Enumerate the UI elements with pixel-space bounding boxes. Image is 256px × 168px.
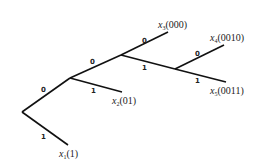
edge-label: 1: [195, 77, 200, 85]
leaf-label-x5: x5(0011): [209, 85, 244, 97]
leaf-label-x3: x3(000): [157, 19, 187, 31]
leaf-label-x1: x1(1): [58, 148, 78, 160]
edge-label: 0: [195, 50, 200, 58]
edge-label: 1: [41, 133, 46, 141]
edge-label: 1: [142, 64, 147, 72]
edge-label: 0: [90, 58, 95, 66]
code-tree-diagram: 0 1 0 1 0 1 0 1 x1(1) x2(01) x3(000) x4(…: [0, 0, 256, 168]
edge-0-1: [70, 78, 122, 92]
edge-00-1: [121, 55, 175, 69]
edge-label: 1: [91, 87, 96, 95]
edge-0-0: [70, 55, 121, 78]
edge-001-1: [175, 69, 226, 82]
edge-root-0: [22, 78, 70, 112]
edge-label: 0: [142, 37, 147, 45]
edge-label: 0: [41, 86, 46, 94]
leaf-label-x2: x2(01): [111, 95, 136, 107]
leaf-label-x4: x4(0010): [209, 32, 244, 44]
